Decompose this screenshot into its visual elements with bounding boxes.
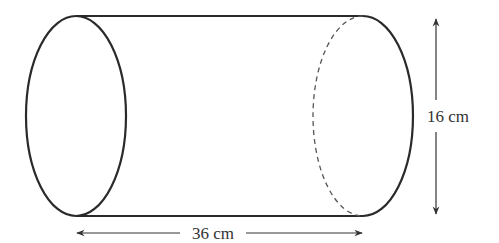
right-face-visible-arc bbox=[363, 16, 413, 216]
height-label: 16 cm bbox=[427, 107, 469, 126]
cylinder-diagram: 36 cm 16 cm bbox=[0, 0, 499, 243]
left-face-ellipse bbox=[26, 16, 126, 216]
length-label: 36 cm bbox=[192, 224, 234, 243]
right-face-hidden-arc bbox=[313, 16, 363, 216]
